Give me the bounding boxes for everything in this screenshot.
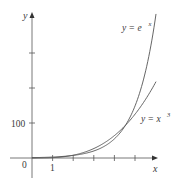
x-tick-label-1: 1 (50, 163, 55, 173)
x-axis-label: x (152, 163, 158, 174)
y-axis-arrow-icon (30, 12, 35, 18)
svg-text:3: 3 (166, 111, 171, 118)
y-axis-label: y (22, 10, 28, 21)
y-tick-label-100: 100 (11, 119, 26, 129)
svg-text:x: x (148, 20, 152, 27)
svg-text:y = e: y = e (121, 23, 142, 33)
origin-label: 0 (22, 160, 27, 170)
x-axis-arrow-icon (152, 156, 158, 161)
chart: y x 0 1 100 y = e x y = x 3 (0, 0, 177, 186)
exp-curve (32, 14, 156, 158)
svg-text:y = x: y = x (140, 114, 161, 124)
exp-curve-label: y = e x (121, 20, 152, 33)
cube-curve (32, 82, 156, 158)
cube-curve-label: y = x 3 (140, 111, 171, 124)
